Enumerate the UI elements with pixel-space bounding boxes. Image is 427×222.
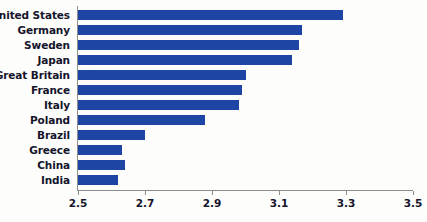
x-axis-tick-label: 3.5: [393, 197, 427, 209]
bar-chart: United StatesGermanySwedenJapanGreat Bri…: [0, 0, 427, 222]
bar: [78, 145, 122, 155]
bar: [78, 40, 299, 50]
bar: [78, 70, 246, 80]
category-label: China: [37, 158, 70, 173]
x-axis-tick-label: 2.7: [125, 197, 165, 209]
bar-row: [78, 113, 413, 128]
category-label: France: [31, 83, 70, 98]
x-axis-tick-label: 2.9: [192, 197, 232, 209]
category-axis: United StatesGermanySwedenJapanGreat Bri…: [0, 8, 74, 188]
bar-row: [78, 158, 413, 173]
bar-row: [78, 68, 413, 83]
x-axis-tick: [413, 191, 414, 195]
bar-row: [78, 128, 413, 143]
category-label: India: [41, 173, 70, 188]
category-label: United States: [0, 8, 70, 23]
bar: [78, 25, 302, 35]
x-axis-tick-label: 3.1: [259, 197, 299, 209]
category-label: Germany: [17, 23, 70, 38]
x-axis-tick: [346, 191, 347, 195]
bar-row: [78, 23, 413, 38]
category-label: Greece: [29, 143, 70, 158]
bar: [78, 115, 205, 125]
bar-row: [78, 8, 413, 23]
x-axis-line: [77, 190, 413, 191]
bar-row: [78, 53, 413, 68]
bar: [78, 10, 343, 20]
x-axis-tick: [78, 191, 79, 195]
x-axis-tick: [212, 191, 213, 195]
bar: [78, 100, 239, 110]
bar: [78, 55, 292, 65]
bar-row: [78, 83, 413, 98]
x-axis-tick-label: 3.3: [326, 197, 366, 209]
category-label: Great Britain: [0, 68, 70, 83]
bar-row: [78, 173, 413, 188]
x-axis-tick-label: 2.5: [58, 197, 98, 209]
category-label: Poland: [30, 113, 70, 128]
category-label: Sweden: [24, 38, 70, 53]
bar-row: [78, 38, 413, 53]
plot-area: [78, 8, 413, 188]
y-axis-line: [77, 6, 78, 190]
category-label: Brazil: [37, 128, 70, 143]
category-label: Italy: [44, 98, 70, 113]
bar: [78, 160, 125, 170]
category-label: Japan: [37, 53, 70, 68]
bar-row: [78, 98, 413, 113]
x-axis-tick: [279, 191, 280, 195]
bar: [78, 85, 242, 95]
x-axis-tick: [145, 191, 146, 195]
bar-row: [78, 143, 413, 158]
bar: [78, 175, 118, 185]
bar: [78, 130, 145, 140]
